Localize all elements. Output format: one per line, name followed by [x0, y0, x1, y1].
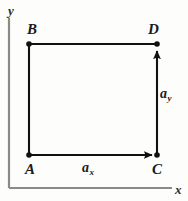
corner-points-group — [26, 41, 160, 158]
point-C-dot — [154, 152, 160, 158]
vector-label-ax-subscript: x — [90, 167, 95, 177]
vector-label-ay: ay — [160, 87, 171, 101]
vector-label-ay-subscript: y — [168, 93, 172, 103]
vector-label-ay-base: a — [160, 86, 167, 101]
point-A-dot — [26, 152, 32, 158]
point-label-A: A — [25, 162, 35, 177]
vectors-group — [29, 51, 157, 155]
point-label-C: C — [152, 162, 162, 177]
vector-component-diagram: B D A C y x ax ay — [0, 0, 188, 201]
y-axis-label: y — [8, 4, 14, 17]
point-B-dot — [26, 41, 32, 47]
vector-label-ax-base: a — [82, 160, 89, 175]
rectangle-edges-group — [29, 44, 157, 155]
point-label-D: D — [148, 22, 159, 37]
point-D-dot — [154, 41, 160, 47]
vector-label-ax: ax — [82, 161, 94, 175]
x-axis-label: x — [175, 183, 182, 196]
point-label-B: B — [27, 22, 37, 37]
